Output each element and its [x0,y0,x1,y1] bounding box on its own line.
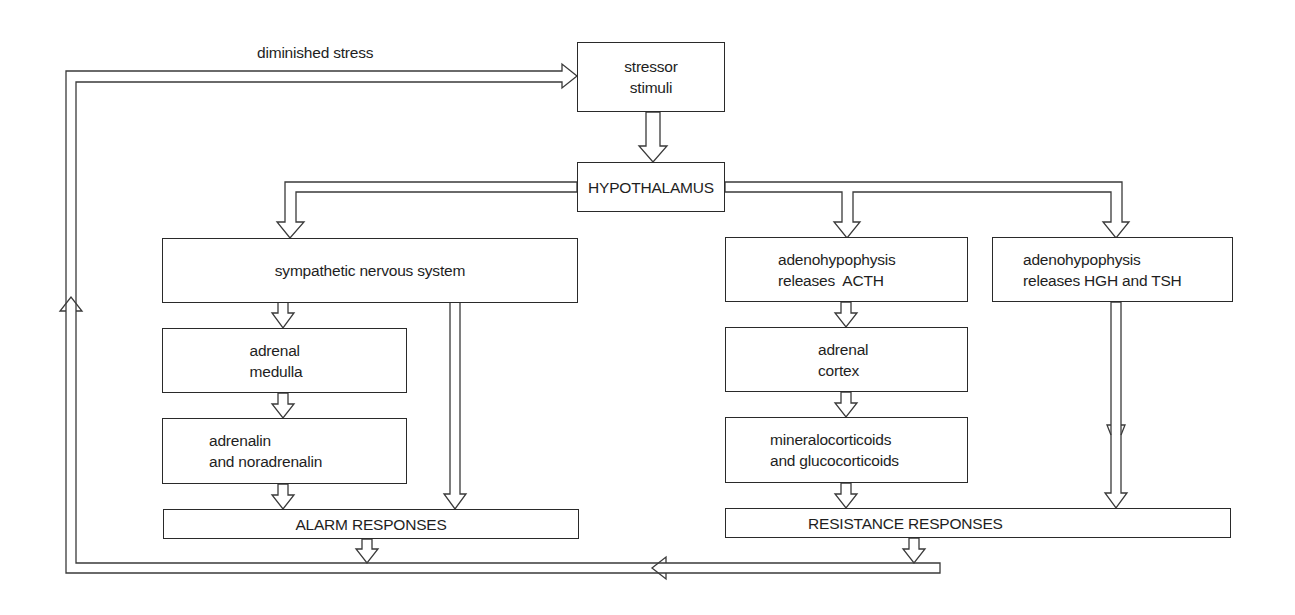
arrow-resistance-to-feedback [903,538,925,563]
arrow-hypothalamus-to-sympathetic [277,182,577,238]
node-text: adenohypophysis [1023,249,1232,270]
node-resistance-responses: RESISTANCE RESPONSES [725,508,1231,538]
node-adenohypophysis-hgh-tsh: adenohypophysis releases HGH and TSH [992,237,1233,302]
node-sympathetic-nervous-system: sympathetic nervous system [162,238,578,303]
node-adrenalin-noradrenalin: adrenalin and noradrenalin [162,418,407,484]
node-text: mineralocorticoids [770,429,967,450]
feedback-label: diminished stress [257,44,373,62]
node-text: releases ACTH [778,270,967,291]
node-text: RESISTANCE RESPONSES [808,513,1230,534]
node-text: releases HGH and TSH [1023,270,1232,291]
node-text: adrenal [818,339,967,360]
node-hypothalamus: HYPOTHALAMUS [577,162,725,212]
arrow-stressor-to-hypothalamus [639,112,667,162]
arrow-acth-to-cortex [835,302,857,327]
feedback-loop-arrow [66,64,940,573]
node-text: adrenalin [209,430,406,451]
node-text: adrenal [250,340,320,361]
arrow-hgh-to-resistance [1105,302,1127,508]
node-text: ALARM RESPONSES [295,514,446,535]
node-text: and noradrenalin [209,451,406,472]
node-alarm-responses: ALARM RESPONSES [163,509,579,539]
node-stressor-stimuli: stressor stimuli [577,42,725,112]
node-text: cortex [818,360,967,381]
arrow-corticoids-to-resistance [835,483,857,508]
arrow-hypothalamus-to-pituitary [725,182,1129,238]
node-adrenal-cortex: adrenal cortex [725,327,968,392]
arrow-alarm-to-feedback [356,539,378,563]
arrow-sympathetic-to-alarm [444,302,466,509]
node-text: stimuli [630,77,673,98]
node-adrenal-medulla: adrenal medulla [162,328,407,393]
node-text: and glucocorticoids [770,450,967,471]
arrow-medulla-to-adrenalin [272,393,294,418]
node-adenohypophysis-acth: adenohypophysis releases ACTH [725,237,968,302]
node-text: adenohypophysis [778,249,967,270]
node-corticoids: mineralocorticoids and glucocorticoids [725,417,968,483]
node-text: medulla [250,361,320,382]
arrow-adrenalin-to-alarm [272,484,294,509]
node-text: sympathetic nervous system [275,260,465,281]
node-text: stressor [624,56,678,77]
arrow-cortex-to-corticoids [835,392,857,417]
arrow-sympathetic-to-medulla [272,302,294,328]
node-text: HYPOTHALAMUS [588,177,714,198]
